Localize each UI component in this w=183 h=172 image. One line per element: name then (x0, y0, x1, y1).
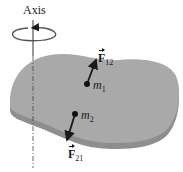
rigid-body-diagram: Axis m1 m2 F12 F21 (0, 0, 183, 172)
force-f21-label: F21 (68, 148, 83, 163)
rotation-arrow-icon (13, 28, 56, 41)
mass-m1-label: m1 (93, 79, 106, 94)
mass-m2-label: m2 (81, 109, 94, 124)
mass-m2-dot (72, 111, 78, 117)
diagram-graphics (0, 0, 183, 172)
force-f12-label: F12 (98, 52, 113, 67)
axis-label: Axis (23, 4, 46, 16)
mass-m1-dot (84, 81, 90, 87)
body-surface (10, 54, 179, 143)
